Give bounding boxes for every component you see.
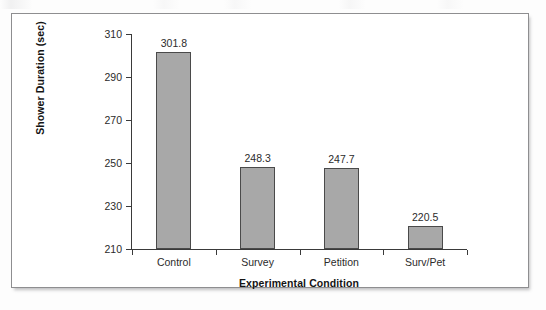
y-tick-label: 230 bbox=[82, 201, 122, 212]
y-tick-mark bbox=[126, 120, 131, 121]
bar-value-label: 247.7 bbox=[299, 154, 383, 165]
figure-frame: 210230250270290310 ControlSurveyPetition… bbox=[11, 13, 529, 288]
x-tick-label: Control bbox=[132, 257, 216, 268]
scan-noise-artifact bbox=[0, 0, 546, 9]
y-tick-label: 310 bbox=[82, 29, 122, 40]
x-tick-mark bbox=[132, 250, 133, 255]
x-tick-label: Petition bbox=[299, 257, 383, 268]
bar-chart: 210230250270290310 ControlSurveyPetition… bbox=[12, 14, 530, 289]
x-tick-mark bbox=[383, 250, 384, 255]
x-axis-line bbox=[131, 249, 467, 250]
x-tick-label: Survey bbox=[216, 257, 300, 268]
x-tick-label: Surv/Pet bbox=[383, 257, 467, 268]
bar-value-label: 248.3 bbox=[216, 153, 300, 164]
y-tick-mark bbox=[126, 77, 131, 78]
y-tick-label: 250 bbox=[82, 158, 122, 169]
y-tick-mark bbox=[126, 249, 131, 250]
y-axis-line bbox=[131, 34, 132, 250]
bar bbox=[324, 168, 359, 249]
scanned-page-background: 210230250270290310 ControlSurveyPetition… bbox=[0, 0, 546, 310]
x-axis-title: Experimental Condition bbox=[131, 277, 467, 289]
y-tick-mark bbox=[126, 34, 131, 35]
x-tick-mark bbox=[300, 250, 301, 255]
bar bbox=[156, 52, 191, 249]
y-tick-label: 210 bbox=[82, 244, 122, 255]
bar-value-label: 301.8 bbox=[132, 38, 216, 49]
y-axis-title: Shower Duration (sec) bbox=[34, 0, 46, 158]
y-tick-mark bbox=[126, 163, 131, 164]
y-tick-label: 270 bbox=[82, 115, 122, 126]
y-tick-mark bbox=[126, 206, 131, 207]
x-tick-mark bbox=[216, 250, 217, 255]
x-tick-mark bbox=[467, 250, 468, 255]
bar-value-label: 220.5 bbox=[383, 212, 467, 223]
bar bbox=[408, 226, 443, 249]
y-tick-label: 290 bbox=[82, 72, 122, 83]
bar bbox=[240, 167, 275, 249]
